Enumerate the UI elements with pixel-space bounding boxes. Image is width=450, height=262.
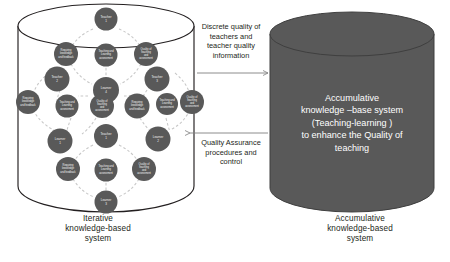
node-concept-quality[interactable]: Quality of teaching and assessment: [90, 94, 114, 118]
node-label: assessment: [95, 108, 109, 112]
diagram-canvas: Teacher 1 Requiring knowledge and feedba…: [0, 0, 450, 262]
left-system-caption: Iterative knowledge-based system: [28, 214, 168, 245]
node-concept-requiring[interactable]: Requiring knowledge and feedback: [56, 157, 80, 181]
flow-feedback-label: Quality Assurance procedures and control: [188, 138, 274, 167]
node-label: 1: [105, 19, 107, 23]
node-actor-teacher[interactable]: Teacher 2: [45, 67, 70, 92]
node-label: and feedback: [129, 107, 145, 111]
node-label: assessment: [99, 56, 113, 60]
node-label: 3: [156, 79, 158, 83]
node-concept-requiring[interactable]: Requiring knowledge and feedback: [16, 90, 40, 114]
node-concept-requiring[interactable]: Requiring knowledge and feedback: [54, 42, 78, 66]
node-concept-quality[interactable]: Quality of teaching and assessment: [132, 157, 156, 181]
node-label: and feedback: [58, 55, 74, 59]
left-system-caption-line: knowledge-based: [28, 224, 168, 234]
node-actor-teacher[interactable]: Teacher 1: [95, 8, 118, 31]
node-actor-teacher[interactable]: Teacher 3: [145, 67, 170, 92]
node-label: 1: [105, 136, 107, 140]
node-label: 1: [59, 141, 61, 145]
right-system-body-text: Accumulative knowledge –base system (Tea…: [270, 92, 434, 154]
right-system-body-line: (Teaching-learning ): [270, 117, 434, 129]
flow-feedback-label-line: Quality Assurance: [188, 138, 274, 148]
right-system-caption: Accumulative knowledge-based system: [290, 214, 430, 245]
node-concept-quality[interactable]: Quality of teaching and assessment: [180, 90, 204, 114]
node-label: assessment: [60, 107, 74, 111]
node-actor-teacher[interactable]: Teacher 1: [94, 124, 118, 148]
node-label: assessment: [139, 56, 153, 60]
node-concept-teaching-learning[interactable]: Teaching and Learning assessment: [156, 93, 178, 115]
flow-feedback-label-line: control: [188, 157, 274, 167]
flow-feedback-label-line: procedures and: [188, 148, 274, 158]
flow-forward-label-line: teachers and: [188, 32, 274, 42]
right-system-body-line: knowledge –base system: [270, 104, 434, 116]
node-label: 2: [56, 79, 58, 83]
right-system-caption-line: knowledge-based: [290, 224, 430, 234]
node-label: 4: [105, 90, 107, 94]
right-system-body-line: teaching: [270, 142, 434, 154]
flow-forward-label-line: teacher quality: [188, 41, 274, 51]
node-label: 3: [105, 202, 107, 206]
right-system-body-line: to enhance the Quality of: [270, 129, 434, 141]
flow-forward-label: Discrete quality of teachers and teacher…: [188, 22, 274, 60]
flow-forward-label-line: Discrete quality of: [188, 22, 274, 32]
node-concept-teaching-learning[interactable]: Teaching and Learning assessment: [56, 95, 79, 118]
node-label: and feedback: [20, 103, 36, 107]
node-label: assessment: [137, 171, 151, 175]
node-actor-learner[interactable]: Learner 1: [48, 129, 73, 154]
right-system-caption-line: Accumulative: [290, 214, 430, 224]
node-concept-teaching-learning[interactable]: Teaching and Learning assessment: [95, 159, 118, 182]
node-label: and feedback: [60, 170, 76, 174]
node-label: assessment: [99, 171, 113, 175]
node-label: assessment: [185, 104, 199, 108]
flow-forward-label-line: information: [188, 51, 274, 61]
node-concept-teaching-learning[interactable]: Teaching and Learning assessment: [95, 44, 118, 67]
node-concept-requiring[interactable]: Requiring knowledge and feedback: [125, 94, 150, 119]
left-system-caption-line: Iterative: [28, 214, 168, 224]
node-actor-learner[interactable]: Learner 2: [146, 127, 171, 152]
node-label: assessment: [160, 105, 174, 109]
node-label: 2: [157, 139, 159, 143]
right-system-caption-line: system: [290, 234, 430, 244]
node-concept-quality[interactable]: Quality of teaching and assessment: [134, 42, 158, 66]
left-system-caption-line: system: [28, 234, 168, 244]
right-system-body-line: Accumulative: [270, 92, 434, 104]
node-actor-learner[interactable]: Learner 3: [95, 191, 118, 214]
